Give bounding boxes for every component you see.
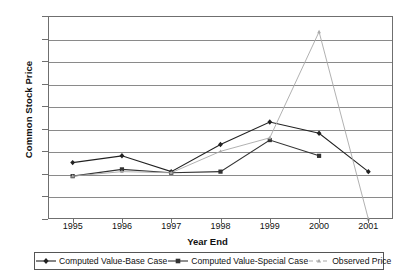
- x-axis-tick-label: 2000: [296, 222, 342, 231]
- series-data-point: [317, 154, 321, 158]
- series-data-point: [268, 136, 272, 139]
- legend-item[interactable]: Observed Price: [308, 256, 391, 266]
- x-axis-tick-label: 1995: [50, 222, 96, 231]
- x-axis-tick-label: 1999: [247, 222, 293, 231]
- chart-figure: Common Stock Price 0102030405060708090 1…: [0, 0, 415, 276]
- series-line: [73, 32, 369, 219]
- x-axis-tick-label: 1996: [99, 222, 145, 231]
- legend-item-label: Computed Value-Special Case: [191, 257, 308, 266]
- legend-item[interactable]: Computed Value-Base Case: [35, 256, 167, 266]
- legend-item-label: Computed Value-Base Case: [59, 257, 167, 266]
- series-data-point: [267, 119, 272, 124]
- series-data-point: [317, 30, 321, 33]
- square-marker-icon: [167, 256, 189, 266]
- legend-item-label: Observed Price: [332, 257, 391, 266]
- series-data-point: [218, 170, 222, 174]
- series-data-point: [218, 142, 223, 147]
- y-axis-title: Common Stock Price: [23, 30, 34, 190]
- x-axis-tick-label: 1997: [148, 222, 194, 231]
- triangle-marker-icon: [308, 256, 330, 266]
- x-axis-tick-label: 1998: [198, 222, 244, 231]
- chart-legend: Computed Value-Base CaseComputed Value-S…: [34, 252, 384, 270]
- y-axis-tick-mark: [42, 219, 48, 220]
- legend-item[interactable]: Computed Value-Special Case: [167, 256, 308, 266]
- diamond-marker-icon: [35, 256, 57, 266]
- x-axis-tick-label: 2001: [345, 222, 391, 231]
- series-data-point: [120, 153, 125, 158]
- series-data-point: [70, 160, 75, 165]
- series-overlay: [48, 16, 393, 219]
- x-axis-title: Year End: [0, 236, 415, 247]
